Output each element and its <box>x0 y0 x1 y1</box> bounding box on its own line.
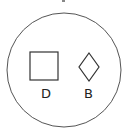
diamond-shape <box>79 53 99 81</box>
square-label: D <box>41 87 51 100</box>
square-shape <box>30 52 58 80</box>
diamond-label: B <box>84 87 93 100</box>
diagram-canvas <box>0 0 128 130</box>
top-fragment <box>62 0 65 2</box>
outer-circle <box>7 13 121 127</box>
